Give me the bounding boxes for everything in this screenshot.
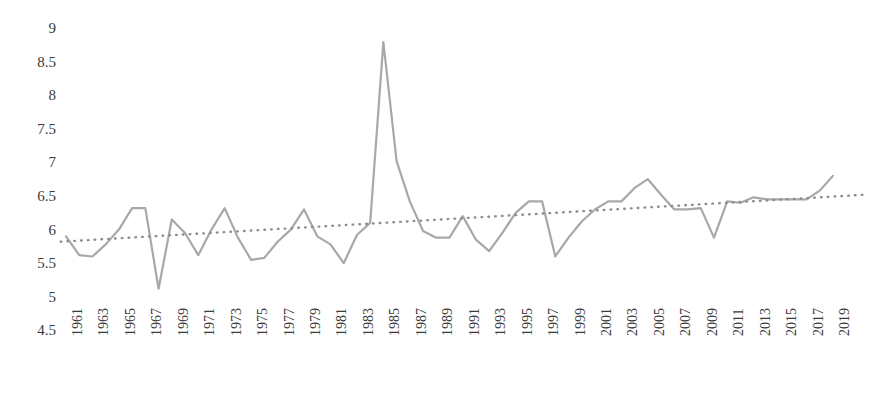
line-chart: 98.587.576.565.554.5 1961196319651967196… (0, 0, 885, 397)
data-series-line (66, 42, 833, 289)
plot-area (0, 0, 885, 397)
